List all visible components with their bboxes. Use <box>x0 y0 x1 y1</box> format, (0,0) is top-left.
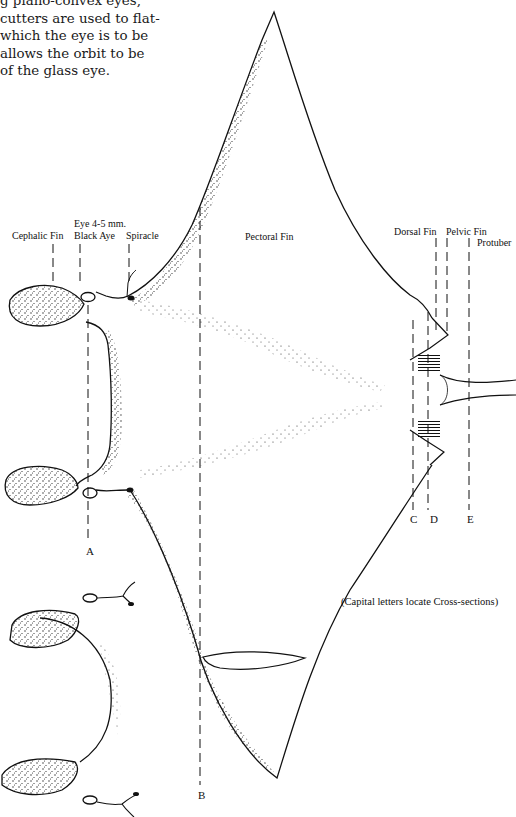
section-letter-d: D <box>430 513 438 525</box>
label-protuberance: Protuber <box>477 237 511 248</box>
label-dorsal-fin: Dorsal Fin <box>394 226 437 237</box>
label-pelvic-fin: Pelvic Fin <box>446 226 487 237</box>
section-letter-a: A <box>86 545 94 557</box>
label-pectoral-fin: Pectoral Fin <box>245 231 294 242</box>
lower-head-detail <box>2 582 139 817</box>
manta-ray-diagram <box>0 0 516 817</box>
eye-lower <box>83 488 97 498</box>
spiracle-lower <box>127 488 134 493</box>
tail-region <box>410 318 516 465</box>
label-eye-color: Black Aye <box>74 230 115 241</box>
label-cephalic-fin: Cephalic Fin <box>12 230 63 241</box>
section-letter-b: B <box>198 789 205 801</box>
eye-upper <box>81 293 95 302</box>
main-ray-outline <box>76 12 432 778</box>
cephalic-fin-lower <box>5 466 133 505</box>
spiracle-upper <box>128 296 135 301</box>
label-eye-size: Eye 4-5 mm. <box>74 218 126 229</box>
section-letter-e: E <box>467 513 474 525</box>
section-letter-c: C <box>410 513 417 525</box>
label-spiracle: Spiracle <box>126 230 159 241</box>
pectoral-cross-section <box>203 652 305 669</box>
cross-section-note: (Capital letters locate Cross-sections) <box>341 596 498 607</box>
stippling <box>100 40 385 772</box>
